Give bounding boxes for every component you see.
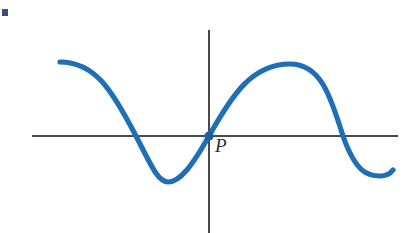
graph-svg bbox=[0, 0, 417, 233]
point-marker-P bbox=[204, 131, 213, 140]
point-label-P: P bbox=[215, 136, 227, 155]
figure-canvas: P bbox=[0, 0, 417, 233]
corner-mark-icon bbox=[2, 9, 8, 16]
